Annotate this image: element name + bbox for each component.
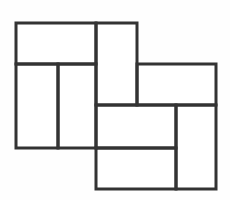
tile-left-outer-face [58,64,96,148]
tiling-figure: top-left rectangleupper center tall rect… [0,0,230,200]
tile-upper-center-tall-face [96,23,137,105]
tiling-diagram: top-left rectangleupper center tall rect… [0,0,230,200]
tile-center-lower-face [96,105,176,148]
tile-bottom-center-face [96,148,176,189]
tile-right-lower-tall-face [176,105,216,189]
tile-right-upper-face [137,64,216,105]
tile-left-inner-face [16,64,58,148]
tile-top-left-face [16,23,96,64]
